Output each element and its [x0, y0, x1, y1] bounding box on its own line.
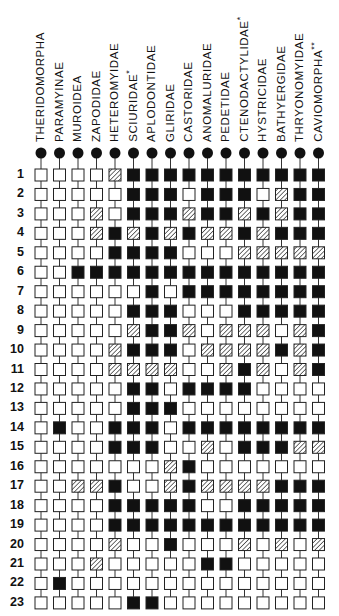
state-filled-cell — [109, 227, 121, 239]
state-open-cell — [35, 227, 47, 239]
state-filled-cell — [202, 422, 214, 434]
state-hatched-cell — [220, 480, 232, 492]
state-open-cell — [54, 208, 66, 220]
state-open-cell — [257, 461, 269, 473]
state-filled-cell — [239, 364, 251, 376]
state-open-cell — [54, 364, 66, 376]
state-hatched-cell — [313, 247, 325, 259]
state-filled-cell — [165, 266, 177, 278]
state-hatched-cell — [202, 227, 214, 239]
state-hatched-cell — [109, 539, 121, 551]
state-hatched-cell — [220, 364, 232, 376]
state-filled-cell — [239, 305, 251, 317]
state-filled-cell — [202, 208, 214, 220]
state-open-cell — [91, 364, 103, 376]
taxon-node-icon — [295, 148, 306, 159]
state-filled-cell — [313, 364, 325, 376]
state-open-cell — [294, 558, 306, 570]
state-open-cell — [35, 208, 47, 220]
state-hatched-cell — [294, 441, 306, 453]
state-open-cell — [109, 461, 121, 473]
state-open-cell — [91, 577, 103, 589]
state-open-cell — [313, 597, 325, 609]
taxon-node-icon — [313, 148, 324, 159]
state-open-cell — [72, 325, 84, 337]
state-filled-cell — [239, 188, 251, 200]
state-hatched-cell — [165, 461, 177, 473]
state-open-cell — [72, 441, 84, 453]
state-open-cell — [91, 325, 103, 337]
state-open-cell — [239, 461, 251, 473]
state-open-cell — [54, 402, 66, 414]
state-filled-cell — [294, 208, 306, 220]
state-hatched-cell — [72, 480, 84, 492]
state-filled-cell — [220, 558, 232, 570]
state-open-cell — [202, 461, 214, 473]
state-filled-cell — [220, 286, 232, 298]
state-hatched-cell — [257, 364, 269, 376]
state-hatched-cell — [165, 227, 177, 239]
state-open-cell — [220, 597, 232, 609]
state-hatched-cell — [276, 188, 288, 200]
state-open-cell — [257, 558, 269, 570]
state-open-cell — [183, 247, 195, 259]
state-filled-cell — [313, 169, 325, 181]
state-filled-cell — [183, 169, 195, 181]
state-filled-cell — [276, 344, 288, 356]
state-open-cell — [91, 441, 103, 453]
state-open-cell — [165, 422, 177, 434]
state-open-cell — [54, 539, 66, 551]
state-filled-cell — [128, 305, 140, 317]
state-open-cell — [91, 500, 103, 512]
state-filled-cell — [165, 344, 177, 356]
taxon-node-icon — [147, 148, 158, 159]
state-open-cell — [35, 325, 47, 337]
state-hatched-cell — [202, 441, 214, 453]
state-filled-cell — [128, 402, 140, 414]
state-filled-cell — [276, 286, 288, 298]
state-open-cell — [276, 461, 288, 473]
state-open-cell — [72, 227, 84, 239]
state-open-cell — [72, 402, 84, 414]
state-open-cell — [35, 266, 47, 278]
state-filled-cell — [146, 208, 158, 220]
state-filled-cell — [128, 344, 140, 356]
state-open-cell — [220, 539, 232, 551]
state-open-cell — [202, 500, 214, 512]
state-open-cell — [54, 344, 66, 356]
state-filled-cell — [276, 169, 288, 181]
state-open-cell — [35, 519, 47, 531]
state-open-cell — [128, 461, 140, 473]
taxon-node-icon — [239, 148, 250, 159]
state-filled-cell — [276, 266, 288, 278]
state-open-cell — [220, 441, 232, 453]
state-open-cell — [35, 422, 47, 434]
state-open-cell — [202, 305, 214, 317]
state-filled-cell — [239, 266, 251, 278]
taxon-node-icon — [73, 148, 84, 159]
state-open-cell — [202, 577, 214, 589]
state-open-cell — [72, 247, 84, 259]
state-open-cell — [35, 364, 47, 376]
state-filled-cell — [202, 519, 214, 531]
state-open-cell — [72, 344, 84, 356]
state-open-cell — [183, 539, 195, 551]
state-filled-cell — [294, 500, 306, 512]
state-open-cell — [109, 188, 121, 200]
state-open-cell — [313, 577, 325, 589]
state-hatched-cell — [239, 539, 251, 551]
state-open-cell — [128, 577, 140, 589]
state-open-cell — [54, 247, 66, 259]
taxon-node-icon — [202, 148, 213, 159]
state-filled-cell — [220, 188, 232, 200]
state-open-cell — [72, 500, 84, 512]
state-filled-cell — [313, 325, 325, 337]
state-open-cell — [239, 558, 251, 570]
state-filled-cell — [146, 441, 158, 453]
state-open-cell — [183, 597, 195, 609]
state-open-cell — [165, 383, 177, 395]
state-open-cell — [35, 247, 47, 259]
state-hatched-cell — [294, 247, 306, 259]
state-hatched-cell — [220, 227, 232, 239]
state-filled-cell — [257, 208, 269, 220]
